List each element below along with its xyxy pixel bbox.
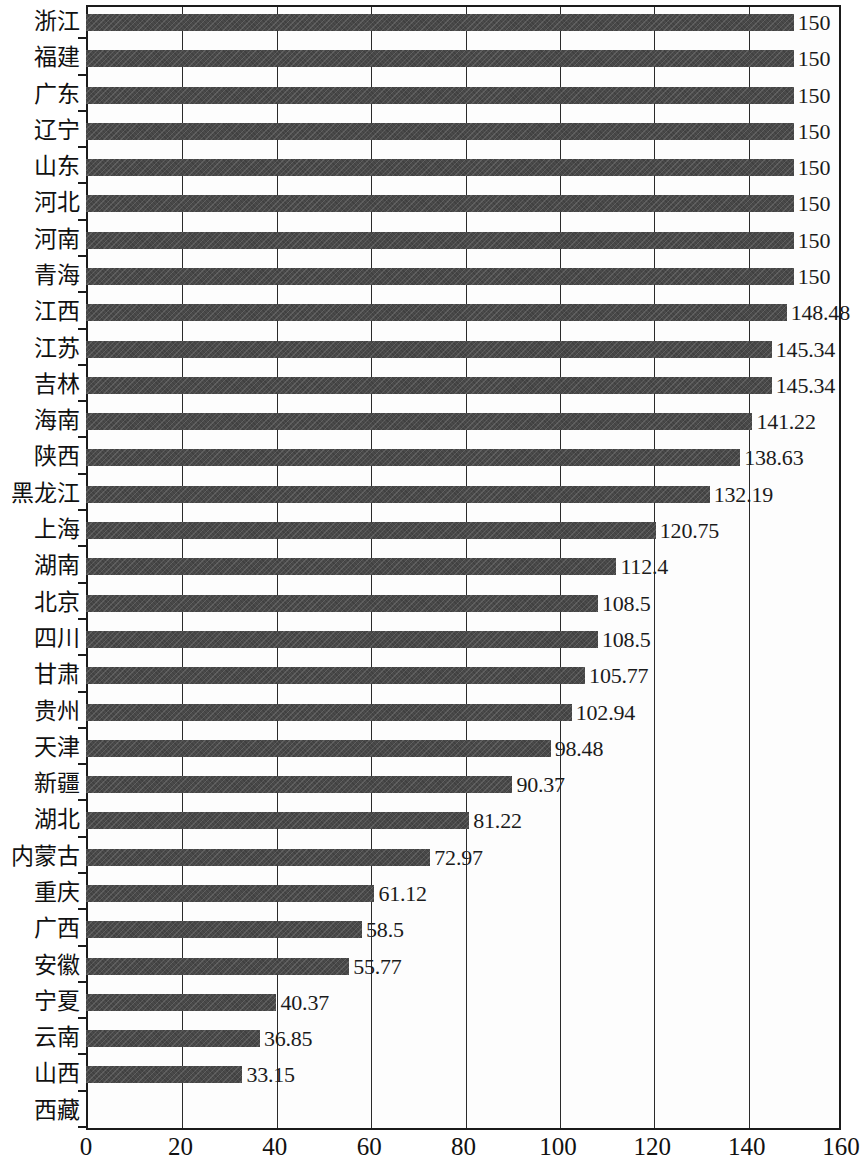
x-axis-tick-label: 20 bbox=[168, 1133, 193, 1156]
category-label: 北京 bbox=[0, 590, 80, 616]
bar bbox=[86, 304, 787, 321]
bar-row: 150 bbox=[86, 150, 841, 186]
bar-row: 132.19 bbox=[86, 477, 841, 513]
x-axis-tick-label: 140 bbox=[728, 1133, 766, 1156]
x-axis-tick-label: 60 bbox=[357, 1133, 382, 1156]
category-label: 天津 bbox=[0, 735, 80, 761]
category-label: 山东 bbox=[0, 154, 80, 180]
bar-row: 40.37 bbox=[86, 985, 841, 1021]
bar bbox=[86, 1030, 260, 1047]
bar bbox=[86, 87, 794, 104]
bar bbox=[86, 631, 598, 648]
bar bbox=[86, 958, 349, 975]
x-axis-tick-label: 120 bbox=[634, 1133, 672, 1156]
bar-row: 108.5 bbox=[86, 586, 841, 622]
x-axis-tick-label: 160 bbox=[822, 1133, 860, 1156]
bar bbox=[86, 849, 430, 866]
bar bbox=[86, 994, 276, 1011]
category-label: 四川 bbox=[0, 626, 80, 652]
bar-value-label: 108.5 bbox=[602, 591, 651, 616]
bar-value-label: 132.19 bbox=[714, 482, 773, 507]
bar-value-label: 150 bbox=[798, 83, 830, 108]
x-axis-tick-label: 0 bbox=[80, 1133, 93, 1156]
category-label: 江西 bbox=[0, 299, 80, 325]
bar-row: 90.37 bbox=[86, 767, 841, 803]
bar bbox=[86, 522, 656, 539]
category-label: 河南 bbox=[0, 227, 80, 253]
x-axis-tick-label: 80 bbox=[451, 1133, 476, 1156]
category-label: 福建 bbox=[0, 45, 80, 71]
category-label: 湖北 bbox=[0, 807, 80, 833]
bar-row: 138.63 bbox=[86, 440, 841, 476]
bar-row: 145.34 bbox=[86, 332, 841, 368]
bar bbox=[86, 812, 469, 829]
category-label: 青海 bbox=[0, 263, 80, 289]
bar-row: 141.22 bbox=[86, 404, 841, 440]
bar bbox=[86, 595, 598, 612]
bar-row: 148.48 bbox=[86, 295, 841, 331]
bar bbox=[86, 123, 794, 140]
category-label: 西藏 bbox=[0, 1098, 80, 1124]
bar-row: 150 bbox=[86, 41, 841, 77]
category-label: 江苏 bbox=[0, 336, 80, 362]
bar-value-label: 81.22 bbox=[473, 808, 522, 833]
category-label: 湖南 bbox=[0, 553, 80, 579]
bar-row: 120.75 bbox=[86, 513, 841, 549]
bar-row: 81.22 bbox=[86, 803, 841, 839]
category-label: 新疆 bbox=[0, 771, 80, 797]
bar-value-label: 61.12 bbox=[378, 881, 427, 906]
category-label: 重庆 bbox=[0, 880, 80, 906]
category-label: 海南 bbox=[0, 408, 80, 434]
category-label: 吉林 bbox=[0, 372, 80, 398]
y-axis-category-labels: 浙江福建广东辽宁山东河北河南青海江西江苏吉林海南陕西黑龙江上海湖南北京四川甘肃贵… bbox=[0, 5, 80, 1130]
category-label: 浙江 bbox=[0, 9, 80, 35]
bar-row bbox=[86, 1094, 841, 1130]
category-label: 内蒙古 bbox=[0, 844, 80, 870]
bar-value-label: 148.48 bbox=[791, 300, 850, 325]
bar-row: 108.5 bbox=[86, 622, 841, 658]
category-label: 广西 bbox=[0, 916, 80, 942]
bar bbox=[86, 1066, 242, 1083]
bar-chart: 浙江福建广东辽宁山东河北河南青海江西江苏吉林海南陕西黑龙江上海湖南北京四川甘肃贵… bbox=[0, 0, 861, 1156]
category-label: 河北 bbox=[0, 190, 80, 216]
bar-row: 55.77 bbox=[86, 949, 841, 985]
bar bbox=[86, 14, 794, 31]
bar bbox=[86, 449, 740, 466]
bar-row: 72.97 bbox=[86, 840, 841, 876]
category-label: 陕西 bbox=[0, 444, 80, 470]
bar-value-label: 150 bbox=[798, 191, 830, 216]
bar bbox=[86, 740, 551, 757]
bar-row: 61.12 bbox=[86, 876, 841, 912]
bar-value-label: 141.22 bbox=[756, 409, 815, 434]
bar-row: 98.48 bbox=[86, 731, 841, 767]
bar-value-label: 98.48 bbox=[555, 736, 604, 761]
bar-value-label: 105.77 bbox=[589, 663, 648, 688]
bars-layer: 150150150150150150150150148.48145.34145.… bbox=[86, 5, 841, 1130]
bar bbox=[86, 921, 362, 938]
category-label: 广东 bbox=[0, 82, 80, 108]
bar-value-label: 150 bbox=[798, 264, 830, 289]
bar-value-label: 145.34 bbox=[776, 337, 835, 362]
bar-value-label: 55.77 bbox=[353, 954, 402, 979]
category-label: 辽宁 bbox=[0, 118, 80, 144]
bar-row: 36.85 bbox=[86, 1021, 841, 1057]
bar-row: 58.5 bbox=[86, 912, 841, 948]
bar-value-label: 40.37 bbox=[280, 990, 329, 1015]
bar bbox=[86, 885, 374, 902]
bar bbox=[86, 159, 794, 176]
bar-row: 112.4 bbox=[86, 549, 841, 585]
bar-value-label: 58.5 bbox=[366, 917, 404, 942]
category-label: 安徽 bbox=[0, 953, 80, 979]
bar bbox=[86, 232, 794, 249]
category-label: 贵州 bbox=[0, 699, 80, 725]
category-label: 宁夏 bbox=[0, 989, 80, 1015]
bar-value-label: 145.34 bbox=[776, 373, 835, 398]
bar bbox=[86, 413, 752, 430]
x-axis-tick-label: 40 bbox=[262, 1133, 287, 1156]
bar-value-label: 72.97 bbox=[434, 845, 483, 870]
bar-value-label: 138.63 bbox=[744, 445, 803, 470]
bar bbox=[86, 50, 794, 67]
bar-value-label: 33.15 bbox=[246, 1062, 295, 1087]
category-label: 山西 bbox=[0, 1061, 80, 1087]
bar-value-label: 150 bbox=[798, 10, 830, 35]
